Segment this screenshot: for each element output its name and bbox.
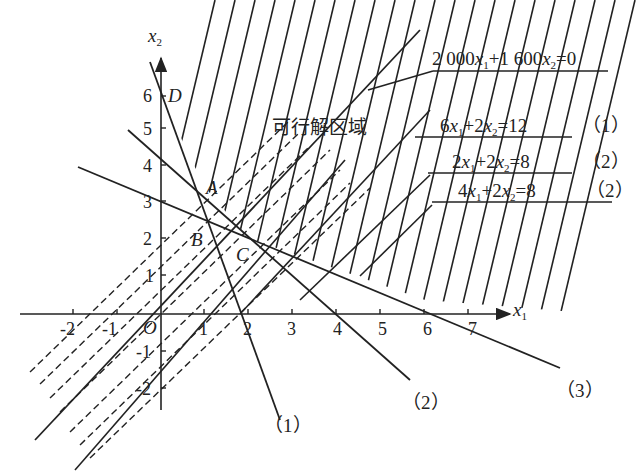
equation-tag-2: （2） (582, 152, 630, 171)
point-c-label: C (236, 245, 249, 264)
x-tick-label: -2 (60, 320, 75, 338)
objective-line-4 (300, 175, 430, 300)
objective-dashed-lines (30, 120, 370, 458)
y-axis-label: x2 (148, 26, 162, 48)
y-tick-label: 1 (145, 267, 154, 285)
eq-rhs: =8 (516, 180, 536, 201)
x-tick-label: 6 (423, 320, 432, 338)
eq-rhs: =12 (498, 115, 528, 136)
y-tick-label: -2 (136, 380, 151, 398)
x-tick-label: 1 (199, 320, 208, 338)
feasible-region-label: 可行解区域 (272, 118, 367, 137)
equation-constraint-3: 4x1+2x2=8 (458, 181, 536, 203)
x-tick-label: -1 (102, 320, 117, 338)
x-axis-subscript: 1 (521, 310, 527, 322)
constraint-line-2 (128, 130, 410, 380)
point-a-label: A (206, 178, 218, 197)
y-tick-label: 6 (143, 87, 152, 105)
point-d-label: D (168, 86, 182, 105)
eq-coef: +2 (463, 115, 483, 136)
objective-line-5 (360, 205, 432, 276)
point-b-label: B (191, 230, 203, 249)
equation-objective: 2 000x1+1 600x2=0 (432, 49, 576, 71)
y-tick-label: 5 (143, 120, 152, 138)
line-tag-2: （2） (402, 393, 450, 412)
equation-tag-1: （1） (582, 116, 630, 135)
objective-line (35, 30, 420, 440)
origin-label: O (143, 318, 157, 337)
x-tick-label: 7 (468, 320, 477, 338)
y-tick-label: -1 (136, 343, 151, 361)
x-axis-label: x1 (513, 300, 527, 322)
eq-coef: +2 (475, 151, 495, 172)
eq-coef: +2 (481, 180, 501, 201)
y-tick-label: 4 (143, 157, 152, 175)
eq-var: x (462, 151, 470, 172)
y-axis-subscript: 2 (156, 36, 162, 48)
y-tick-label: 2 (143, 230, 152, 248)
diagram-graphics (0, 0, 640, 476)
lp-diagram: x2 x1 O -2 -1 1 2 3 4 5 6 7 6 5 4 3 2 1 … (0, 0, 640, 476)
eq-var: x (475, 48, 483, 69)
eq-var: x (450, 115, 458, 136)
eq-var: x (468, 180, 476, 201)
line-tag-3: （3） (556, 381, 604, 400)
eq-var: x (484, 115, 492, 136)
eq-coef: +1 600 (489, 48, 542, 69)
equation-constraint-2: 2x1+2x2=8 (452, 152, 530, 174)
equation-tag-3: （2） (586, 181, 634, 200)
eq-rhs: =0 (556, 48, 576, 69)
eq-coef: 6 (440, 115, 450, 136)
x-tick-label: 4 (333, 320, 342, 338)
eq-coef: 2 000 (432, 48, 475, 69)
eq-var: x (542, 48, 550, 69)
x-tick-label: 2 (243, 320, 252, 338)
eq-coef: 2 (452, 151, 462, 172)
x-tick-label: 3 (287, 320, 296, 338)
line-tag-1: （1） (264, 416, 312, 435)
eq-var: x (502, 180, 510, 201)
x-tick-label: 5 (378, 320, 387, 338)
eq-rhs: =8 (510, 151, 530, 172)
eq-var: x (496, 151, 504, 172)
equation-constraint-1: 6x1+2x2=12 (440, 116, 527, 138)
constraint-line-1 (150, 62, 280, 420)
eq-coef: 4 (458, 180, 468, 201)
y-tick-label: 3 (143, 193, 152, 211)
